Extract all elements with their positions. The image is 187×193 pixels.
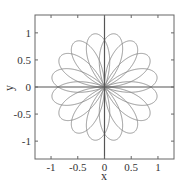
- x-tick-label: -0.5: [69, 161, 87, 173]
- chart: -1-0.500.51 -1-0.500.51 x y: [0, 0, 187, 193]
- y-tick-label: 0: [26, 81, 32, 93]
- y-tick-label: -0.5: [14, 108, 32, 120]
- y-axis-title: y: [2, 85, 16, 91]
- x-tick-label: 0.5: [124, 161, 138, 173]
- y-tick-label: 1: [26, 27, 32, 39]
- plot-area: [35, 15, 174, 159]
- x-tick-label: 1: [155, 161, 161, 173]
- y-tick-label: 0.5: [17, 54, 31, 66]
- y-tick-label: -1: [22, 135, 31, 147]
- y-tick-labels: -1-0.500.51: [14, 27, 32, 147]
- x-tick-label: -1: [46, 161, 55, 173]
- x-axis-title: x: [101, 169, 107, 183]
